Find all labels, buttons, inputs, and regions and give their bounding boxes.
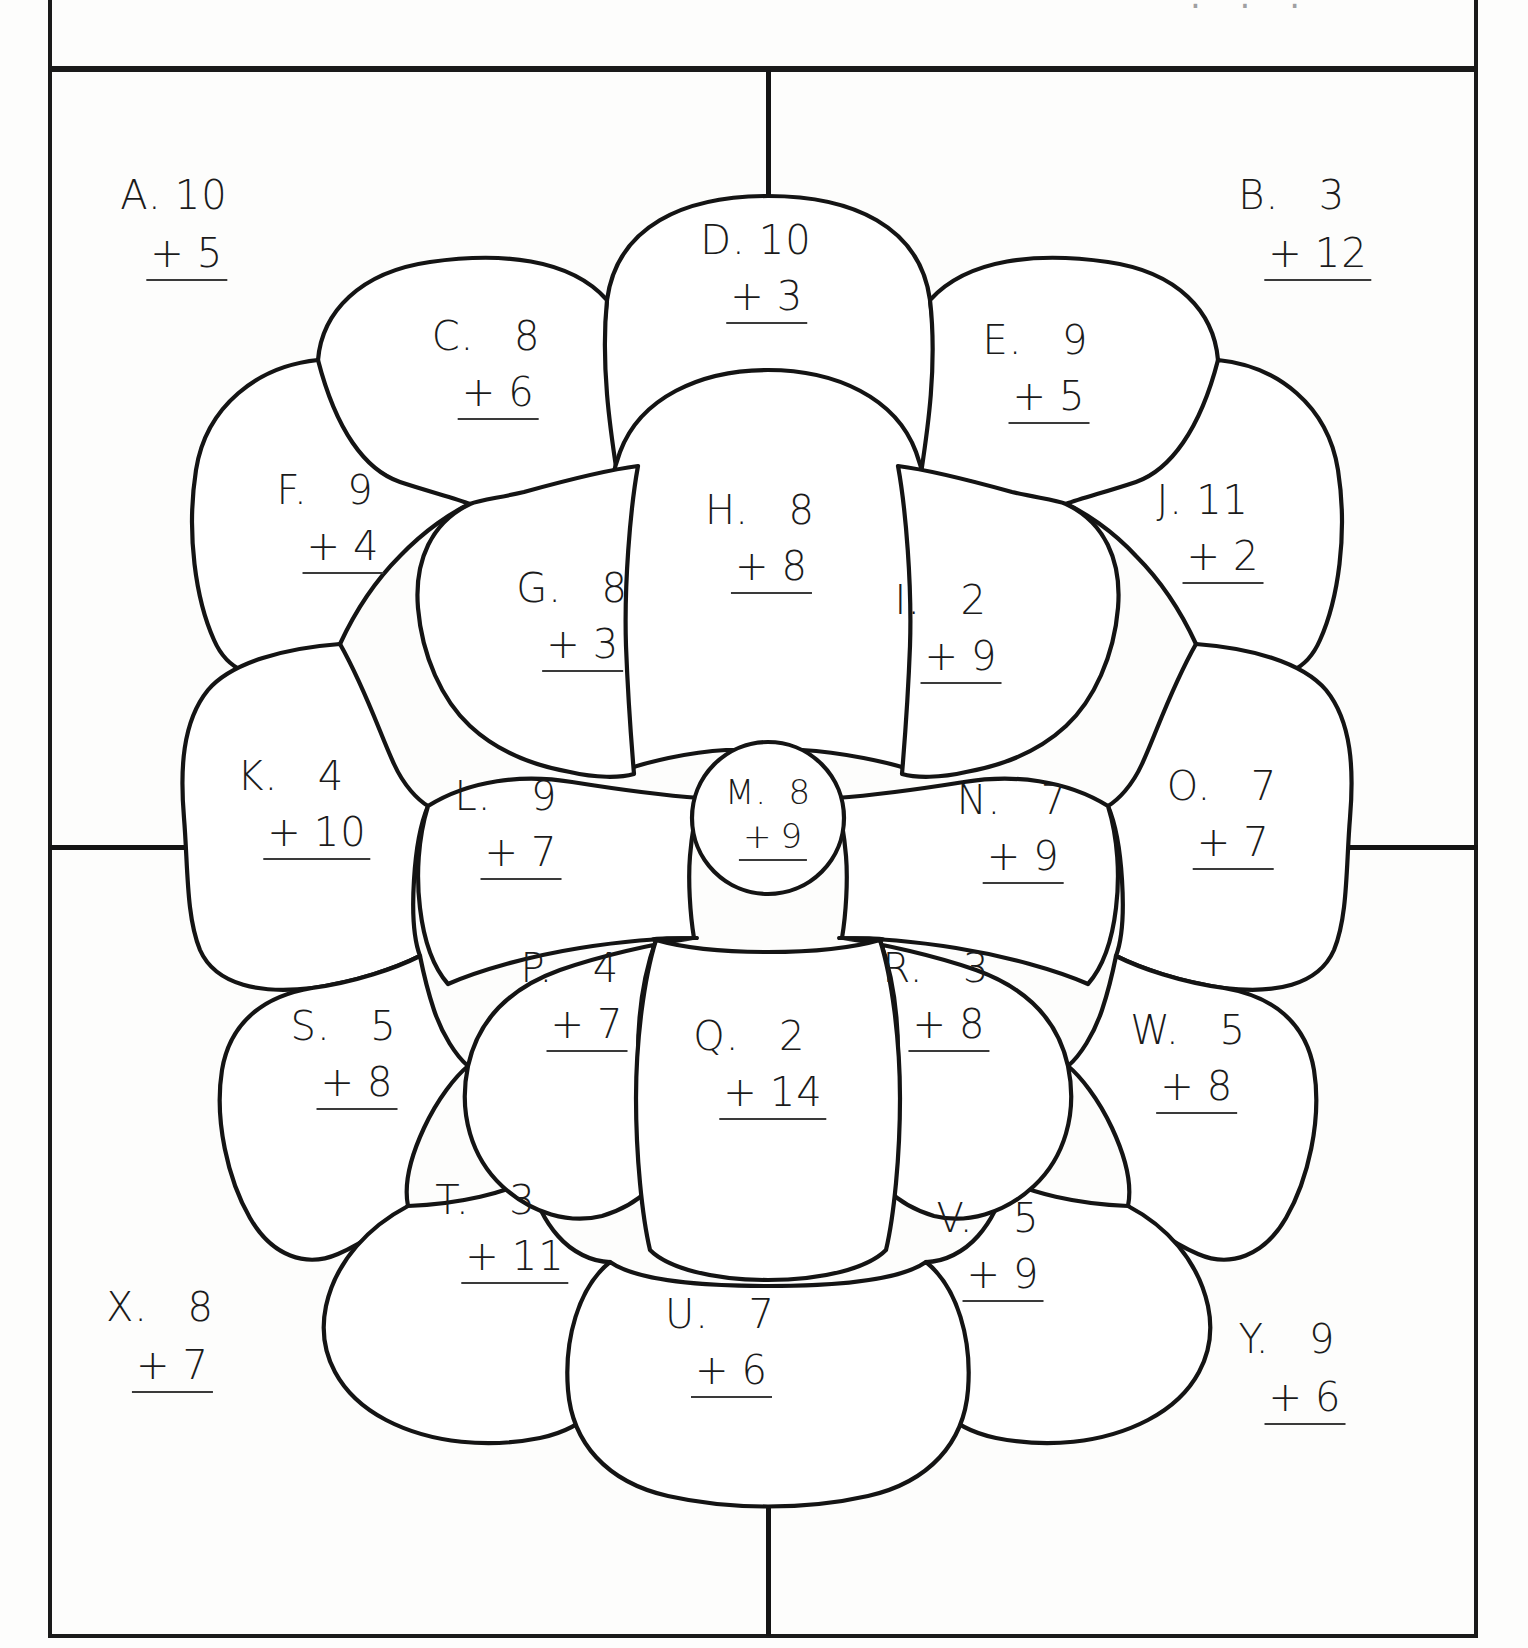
problem-Y-operator: + bbox=[1269, 1377, 1304, 1417]
problem-W-top: 5 bbox=[1180, 1010, 1246, 1050]
problem-A-label: A. bbox=[120, 175, 161, 215]
problem-R-label: R. bbox=[882, 948, 923, 988]
problem-Y-bottom: 6 bbox=[1315, 1377, 1341, 1417]
problem-Y-top: 9 bbox=[1270, 1319, 1336, 1359]
problem-M[interactable]: M.8 +9 bbox=[725, 775, 811, 861]
problem-J-top: 11 bbox=[1183, 480, 1249, 520]
problem-N[interactable]: N.7 +9 bbox=[957, 780, 1068, 884]
problem-A[interactable]: A.10 +5 bbox=[120, 175, 227, 281]
problem-H-operator: + bbox=[735, 546, 770, 586]
problem-W-bottom: 8 bbox=[1207, 1066, 1233, 1106]
problem-P-label: P. bbox=[521, 948, 554, 988]
problem-C-top: 8 bbox=[474, 316, 540, 356]
problem-M-bottom: 9 bbox=[780, 819, 803, 853]
problem-H-label: H. bbox=[705, 490, 749, 530]
problem-P-top: 4 bbox=[553, 948, 619, 988]
problem-I-bottom: 9 bbox=[971, 636, 997, 676]
problem-I-operator: + bbox=[925, 636, 960, 676]
problem-F[interactable]: F.9 +4 bbox=[277, 470, 384, 574]
problem-L-top: 9 bbox=[492, 776, 558, 816]
problem-B[interactable]: B.3 +12 bbox=[1238, 175, 1371, 281]
problem-I[interactable]: I.2 +9 bbox=[895, 580, 1002, 684]
problem-R-bottom: 8 bbox=[959, 1004, 985, 1044]
problem-Q-bottom: 14 bbox=[770, 1072, 823, 1112]
problem-V-operator: + bbox=[967, 1254, 1002, 1294]
problem-X-bottom: 7 bbox=[182, 1345, 208, 1385]
problem-N-operator: + bbox=[987, 836, 1022, 876]
problem-D[interactable]: D.10 +3 bbox=[700, 220, 812, 324]
problem-H-bottom: 8 bbox=[781, 546, 807, 586]
worksheet-page: · · · bbox=[0, 0, 1528, 1648]
problem-K-bottom: 10 bbox=[314, 812, 367, 852]
problem-S[interactable]: S.5 +8 bbox=[291, 1006, 398, 1110]
problem-D-top: 10 bbox=[746, 220, 812, 260]
problem-X-operator: + bbox=[136, 1345, 171, 1385]
problem-X-top: 8 bbox=[148, 1287, 214, 1327]
problem-W-operator: + bbox=[1160, 1066, 1195, 1106]
problem-E-operator: + bbox=[1013, 376, 1048, 416]
problem-P-bottom: 7 bbox=[597, 1004, 623, 1044]
problem-F-bottom: 4 bbox=[353, 526, 379, 566]
problem-C-operator: + bbox=[462, 372, 497, 412]
problem-K-label: K. bbox=[237, 756, 278, 796]
problem-L[interactable]: L.9 +7 bbox=[455, 776, 562, 880]
problem-Y-label: Y. bbox=[1239, 1319, 1270, 1359]
problem-V-top: 5 bbox=[973, 1198, 1039, 1238]
problem-T-operator: + bbox=[465, 1236, 500, 1276]
problem-C[interactable]: C.8 +6 bbox=[432, 316, 541, 420]
problem-W[interactable]: W.5 +8 bbox=[1130, 1010, 1246, 1114]
problem-U-bottom: 6 bbox=[742, 1350, 768, 1390]
problem-J-operator: + bbox=[1187, 536, 1222, 576]
problem-L-label: L. bbox=[455, 776, 492, 816]
problem-S-bottom: 8 bbox=[367, 1062, 393, 1102]
problem-Q-operator: + bbox=[723, 1072, 758, 1112]
problem-P[interactable]: P.4 +7 bbox=[521, 948, 628, 1052]
problem-C-bottom: 6 bbox=[508, 372, 534, 412]
problem-V[interactable]: V.5 +9 bbox=[937, 1198, 1044, 1302]
problem-O-bottom: 7 bbox=[1243, 822, 1269, 862]
problem-G-top: 8 bbox=[562, 568, 628, 608]
problem-H[interactable]: H.8 +8 bbox=[705, 490, 815, 594]
problem-B-top: 3 bbox=[1279, 175, 1345, 215]
problem-E-bottom: 5 bbox=[1059, 376, 1085, 416]
problem-I-top: 2 bbox=[921, 580, 987, 620]
problem-Q[interactable]: Q.2 +14 bbox=[693, 1016, 826, 1120]
problem-T[interactable]: T.3 +11 bbox=[435, 1180, 568, 1284]
problem-N-top: 7 bbox=[1001, 780, 1067, 820]
problem-U[interactable]: U.7 +6 bbox=[665, 1294, 775, 1398]
problem-N-label: N. bbox=[957, 780, 1002, 820]
problem-H-top: 8 bbox=[749, 490, 815, 530]
problem-X-label: X. bbox=[106, 1287, 148, 1327]
problem-D-label: D. bbox=[700, 220, 746, 260]
problem-B-label: B. bbox=[1238, 175, 1279, 215]
problem-A-operator: + bbox=[150, 233, 185, 273]
problem-M-label: M. bbox=[725, 775, 767, 809]
problem-X[interactable]: X.8 +7 bbox=[106, 1287, 214, 1393]
problem-W-label: W. bbox=[1130, 1010, 1180, 1050]
problem-E[interactable]: E.9 +5 bbox=[983, 320, 1090, 424]
problem-R-operator: + bbox=[912, 1004, 947, 1044]
problem-K-top: 4 bbox=[278, 756, 344, 796]
problem-U-label: U. bbox=[665, 1294, 709, 1334]
problem-A-bottom: 5 bbox=[197, 233, 223, 273]
problem-P-operator: + bbox=[551, 1004, 586, 1044]
problem-V-label: V. bbox=[937, 1198, 974, 1238]
problem-V-bottom: 9 bbox=[1013, 1254, 1039, 1294]
problem-K[interactable]: K.4 +10 bbox=[237, 756, 370, 860]
problem-E-label: E. bbox=[983, 320, 1023, 360]
problem-S-top: 5 bbox=[331, 1006, 397, 1046]
problem-D-operator: + bbox=[730, 276, 765, 316]
problem-I-label: I. bbox=[895, 580, 922, 620]
problem-C-label: C. bbox=[432, 316, 475, 356]
problem-G[interactable]: G.8 +3 bbox=[516, 568, 628, 672]
problem-J[interactable]: J.11 +2 bbox=[1157, 480, 1264, 584]
problem-Y[interactable]: Y.9 +6 bbox=[1239, 1319, 1346, 1425]
problem-T-top: 3 bbox=[470, 1180, 536, 1220]
problem-E-top: 9 bbox=[1023, 320, 1089, 360]
problem-M-top: 8 bbox=[767, 775, 811, 809]
problem-G-label: G. bbox=[516, 568, 562, 608]
problem-J-label: J. bbox=[1157, 480, 1184, 520]
problem-O-top: 7 bbox=[1211, 766, 1277, 806]
problem-R[interactable]: R.3 +8 bbox=[882, 948, 989, 1052]
problem-O[interactable]: O.7 +7 bbox=[1167, 766, 1278, 870]
